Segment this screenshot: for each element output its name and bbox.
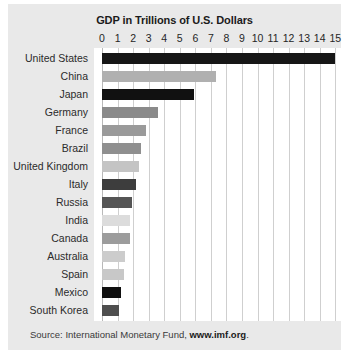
bar-united-kingdom[interactable] bbox=[102, 161, 139, 172]
bar-row[interactable] bbox=[94, 49, 342, 67]
bar-mexico[interactable] bbox=[102, 287, 121, 298]
category-label-italy: Italy bbox=[69, 175, 88, 193]
bar-brazil[interactable] bbox=[102, 143, 141, 154]
x-tick-label-10: 10 bbox=[252, 32, 264, 44]
x-tick-label-4: 4 bbox=[161, 32, 167, 44]
x-tick-label-5: 5 bbox=[177, 32, 183, 44]
bar-australia[interactable] bbox=[102, 251, 125, 262]
bar-united-states[interactable] bbox=[102, 53, 335, 64]
bar-row[interactable] bbox=[94, 211, 342, 229]
bar-russia[interactable] bbox=[102, 197, 132, 208]
category-label-canada: Canada bbox=[51, 229, 88, 247]
x-tick-label-7: 7 bbox=[208, 32, 214, 44]
x-tick-label-0: 0 bbox=[99, 32, 105, 44]
y-axis-category-labels: United StatesChinaJapanGermanyFranceBraz… bbox=[8, 48, 92, 321]
category-label-mexico: Mexico bbox=[55, 283, 88, 301]
x-tick-label-15: 15 bbox=[329, 32, 341, 44]
bar-china[interactable] bbox=[102, 71, 216, 82]
category-label-japan: Japan bbox=[59, 85, 88, 103]
category-label-south-korea: South Korea bbox=[30, 301, 88, 319]
bar-japan[interactable] bbox=[102, 89, 194, 100]
bar-germany[interactable] bbox=[102, 107, 158, 118]
source-suffix-text: . bbox=[246, 329, 249, 340]
bar-row[interactable] bbox=[94, 247, 342, 265]
category-label-brazil: Brazil bbox=[62, 139, 88, 157]
category-label-spain: Spain bbox=[61, 265, 88, 283]
bar-canada[interactable] bbox=[102, 233, 130, 244]
bar-row[interactable] bbox=[94, 265, 342, 283]
source-link[interactable]: www.imf.org bbox=[189, 329, 246, 340]
source-prefix-text: Source: International Monetary Fund, bbox=[30, 329, 189, 340]
bar-italy[interactable] bbox=[102, 179, 136, 190]
category-label-united-states: United States bbox=[25, 49, 88, 67]
bar-row[interactable] bbox=[94, 103, 342, 121]
bar-row[interactable] bbox=[94, 67, 342, 85]
source-note: Source: International Monetary Fund, www… bbox=[30, 329, 249, 340]
bar-row[interactable] bbox=[94, 121, 342, 139]
x-tick-label-14: 14 bbox=[314, 32, 326, 44]
category-label-united-kingdom: United Kingdom bbox=[13, 157, 88, 175]
bar-row[interactable] bbox=[94, 283, 342, 301]
bar-south-korea[interactable] bbox=[102, 305, 119, 316]
bar-row[interactable] bbox=[94, 175, 342, 193]
category-label-russia: Russia bbox=[56, 193, 88, 211]
x-tick-label-11: 11 bbox=[268, 32, 279, 44]
page-title: GDP in Trillions of U.S. Dollars bbox=[8, 14, 341, 26]
x-tick-label-6: 6 bbox=[192, 32, 198, 44]
bar-india[interactable] bbox=[102, 215, 130, 226]
category-label-india: India bbox=[65, 211, 88, 229]
bar-series bbox=[94, 48, 342, 321]
bar-row[interactable] bbox=[94, 85, 342, 103]
x-tick-label-8: 8 bbox=[223, 32, 229, 44]
bar-row[interactable] bbox=[94, 139, 342, 157]
bar-row[interactable] bbox=[94, 157, 342, 175]
x-tick-label-13: 13 bbox=[298, 32, 310, 44]
category-label-china: China bbox=[61, 67, 88, 85]
x-tick-label-9: 9 bbox=[239, 32, 245, 44]
category-label-france: France bbox=[55, 121, 88, 139]
bar-france[interactable] bbox=[102, 125, 146, 136]
x-tick-label-12: 12 bbox=[283, 32, 295, 44]
plot-area bbox=[94, 48, 342, 321]
x-axis-tick-labels: 0123456789101112131415 bbox=[94, 32, 342, 46]
bar-row[interactable] bbox=[94, 301, 342, 319]
bar-spain[interactable] bbox=[102, 269, 124, 280]
x-tick-label-3: 3 bbox=[146, 32, 152, 44]
x-tick-label-2: 2 bbox=[130, 32, 136, 44]
bar-row[interactable] bbox=[94, 193, 342, 211]
category-label-australia: Australia bbox=[47, 247, 88, 265]
chart-card: GDP in Trillions of U.S. Dollars 0123456… bbox=[8, 4, 341, 350]
x-tick-label-1: 1 bbox=[115, 32, 121, 44]
category-label-germany: Germany bbox=[45, 103, 88, 121]
bar-row[interactable] bbox=[94, 229, 342, 247]
